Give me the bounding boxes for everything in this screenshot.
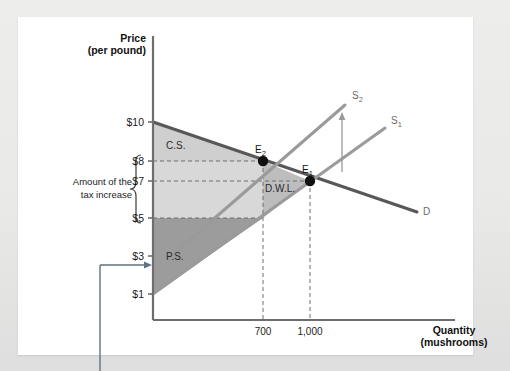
x-axis-title: Quantity (mushrooms)	[404, 324, 504, 348]
deadweight-loss-label: D.W.L.	[265, 183, 295, 195]
s2-base: S	[352, 90, 359, 101]
y-tick-label-5: $5	[102, 212, 144, 224]
e2-sub: 2	[262, 149, 266, 158]
x-axis-title-line1: Quantity	[433, 324, 476, 336]
y-axis-title-line1: Price	[120, 32, 146, 44]
screenshot-background: Price (per pound) Quantity (mushrooms) $…	[0, 0, 510, 371]
y-tick-label-3: $3	[102, 250, 144, 262]
e1-base: E	[302, 164, 309, 175]
x-tick-label-1000: 1,000	[286, 326, 334, 338]
supply-curve-label-s2: S2	[352, 90, 363, 105]
callout-arrowhead	[144, 262, 152, 269]
consumer-surplus-label: C.S.	[166, 140, 185, 152]
demand-curve-label-d: D	[423, 206, 430, 218]
e1-sub: 1	[309, 169, 313, 178]
tax-increase-note: Amount of the tax increase	[22, 176, 132, 202]
x-axis-title-line2: (mushrooms)	[420, 336, 487, 348]
tax-increase-note-line1: Amount of the	[73, 176, 132, 187]
s1-base: S	[391, 115, 398, 126]
y-tick-label-8: $8	[102, 155, 144, 167]
equilibrium-label-e2: E2	[255, 144, 266, 159]
supply-shift-arrowhead	[339, 112, 346, 120]
tax-increase-note-line2: tax increase	[81, 189, 132, 200]
y-tick-label-1: $1	[102, 288, 144, 300]
e2-base: E	[255, 144, 262, 155]
y-axis-title: Price (per pound)	[58, 32, 146, 56]
supply-curve-label-s1: S1	[391, 115, 402, 130]
s1-sub: 1	[398, 120, 402, 129]
y-tick-label-10: $10	[102, 116, 144, 128]
equilibrium-label-e1: E1	[302, 164, 313, 179]
y-axis-title-line2: (per pound)	[88, 44, 146, 56]
producer-surplus-label: P.S.	[166, 251, 184, 263]
x-tick-label-700: 700	[240, 326, 286, 338]
s2-sub: 2	[359, 95, 363, 104]
